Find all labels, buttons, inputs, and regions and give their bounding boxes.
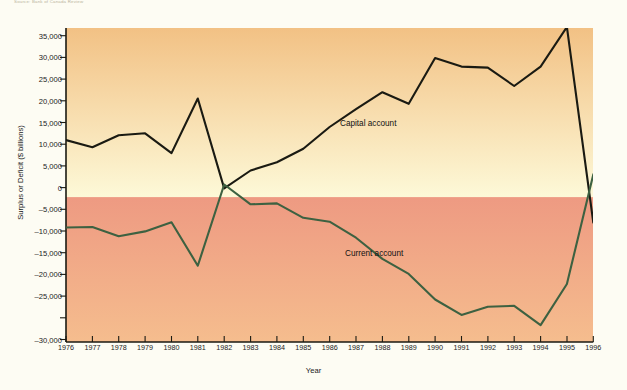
- positive-band: [66, 28, 593, 197]
- y-tick-label: –20,000: [8, 270, 62, 279]
- x-axis-title: Year: [0, 366, 627, 375]
- x-axis-ticks: [66, 336, 593, 342]
- y-axis-title: Surplus or Deficit ($ billions): [16, 98, 25, 248]
- negative-band: [66, 197, 593, 342]
- chart-figure: Source: Bank of Canada Review: [0, 0, 627, 390]
- x-tick-label: 1976: [58, 343, 74, 352]
- x-tick-label: 1981: [190, 343, 206, 352]
- x-tick-label: 1995: [559, 343, 575, 352]
- y-tick-label: –25,000: [8, 292, 62, 301]
- x-tick-label: 1988: [374, 343, 390, 352]
- x-tick-label: 1991: [454, 343, 470, 352]
- x-tick-label: 1986: [322, 343, 338, 352]
- x-tick-label: 1996: [585, 343, 601, 352]
- y-tick-label: –15,000: [8, 248, 62, 257]
- series-label-current-account: Current account: [345, 249, 403, 258]
- x-tick-label: 1977: [84, 343, 100, 352]
- x-tick-label: 1987: [348, 343, 364, 352]
- x-tick-label: 1990: [427, 343, 443, 352]
- x-tick-label: 1994: [533, 343, 549, 352]
- x-tick-label: 1980: [164, 343, 180, 352]
- y-axis-tick-labels: 35,000 30,000 25,000 20,000 15,000 10,00…: [4, 0, 62, 390]
- x-tick-label: 1984: [269, 343, 285, 352]
- x-tick-label: 1982: [216, 343, 232, 352]
- series-label-capital-account: Capital account: [340, 119, 396, 128]
- x-tick-label: 1979: [137, 343, 153, 352]
- x-tick-label: 1989: [401, 343, 417, 352]
- y-tick-label: 35,000: [8, 31, 62, 40]
- line-chart-plot: [0, 0, 627, 390]
- x-tick-label: 1983: [243, 343, 259, 352]
- x-tick-label: 1993: [506, 343, 522, 352]
- x-tick-label: 1985: [295, 343, 311, 352]
- y-tick-label: 30,000: [8, 53, 62, 62]
- x-tick-label: 1992: [480, 343, 496, 352]
- x-tick-label: 1978: [111, 343, 127, 352]
- y-tick-label: 25,000: [8, 75, 62, 84]
- y-tick-label: –30,000: [8, 335, 62, 344]
